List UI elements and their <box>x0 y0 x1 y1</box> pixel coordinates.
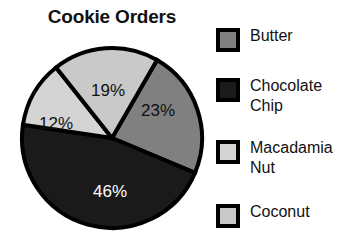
pie-chart-figure: Cookie Orders 23%46%12%19% ButterChocola… <box>0 0 355 246</box>
pie-chart-plot-area: 23%46%12%19% <box>18 42 208 238</box>
chart-title: Cookie Orders <box>14 6 210 28</box>
legend-item[interactable]: Coconut <box>216 202 310 228</box>
pie-slice-label: 12% <box>39 114 73 133</box>
pie-slice-label: 46% <box>93 182 127 201</box>
pie-svg: 23%46%12%19% <box>18 42 208 238</box>
pie-slice-label: 23% <box>141 101 175 120</box>
legend-swatch-icon <box>216 28 240 52</box>
legend-item[interactable]: Macadamia Nut <box>216 138 333 178</box>
legend-item-label: Butter <box>250 26 293 46</box>
legend-swatch-icon <box>216 204 240 228</box>
chart-legend: ButterChocolate ChipMacadamia NutCoconut <box>216 14 355 242</box>
legend-swatch-icon <box>216 78 240 102</box>
pie-slice-label: 19% <box>91 81 125 100</box>
legend-item[interactable]: Butter <box>216 26 293 52</box>
legend-item-label: Coconut <box>250 202 310 222</box>
legend-item-label: Macadamia Nut <box>250 138 333 178</box>
legend-item-label: Chocolate Chip <box>250 76 322 116</box>
legend-item[interactable]: Chocolate Chip <box>216 76 322 116</box>
legend-swatch-icon <box>216 140 240 164</box>
